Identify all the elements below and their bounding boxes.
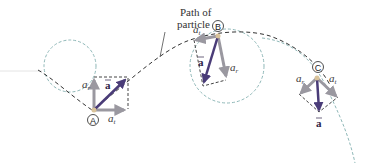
tangential-label-a: at — [108, 112, 117, 126]
point-letter-b: B — [215, 22, 221, 32]
point-dot-a — [92, 108, 97, 113]
radial-label-c: ar — [296, 72, 305, 86]
tangential-label-c: at — [329, 72, 338, 86]
point-a-group: ar a at A — [82, 77, 128, 126]
point-dot-b — [216, 34, 221, 39]
acceleration-arrow-b — [204, 36, 218, 82]
accel-label-b: a — [198, 56, 204, 68]
point-c-group: ar at a C — [296, 62, 338, 130]
acceleration-arrow-c — [317, 78, 319, 110]
radial-label-a: ar — [82, 78, 91, 92]
point-letter-c: C — [315, 63, 322, 73]
particle-path — [38, 32, 330, 110]
path-caption: Path of particle — [160, 6, 212, 57]
accel-label-c: a — [316, 117, 322, 129]
accel-label-a: a — [105, 79, 111, 91]
curvature-circle-c — [262, 38, 355, 163]
radial-arrow-b — [218, 36, 226, 76]
radial-label-b: ar — [230, 61, 239, 75]
acceleration-components-diagram: Path of particle ar a at A at a ar B — [0, 0, 367, 165]
point-letter-a: A — [90, 116, 96, 126]
caption-line-1: Path of — [180, 6, 212, 18]
point-b-group: at a ar B — [193, 21, 239, 87]
point-dot-c — [315, 76, 320, 81]
